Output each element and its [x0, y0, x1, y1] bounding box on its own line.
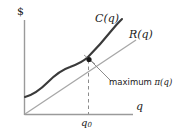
q0-tick-label: q0: [81, 118, 92, 129]
annotation-symbol: π(q): [155, 77, 173, 87]
y-axis-label: $: [17, 6, 24, 17]
revenue-curve-label: R(q): [129, 29, 153, 40]
annotation-word: maximum: [109, 77, 155, 87]
chart-canvas: [0, 0, 174, 136]
x-axis-label: q: [136, 101, 143, 112]
maximum-profit-annotation: maximum π(q): [109, 78, 172, 87]
profit-maximization-figure: $ q C(q) R(q) q0 maximum π(q): [0, 0, 174, 136]
cost-curve-label: C(q): [95, 13, 119, 24]
max-profit-marker: [86, 57, 91, 62]
cost-curve-path: [25, 19, 122, 97]
q0-tick-subscript: 0: [87, 121, 91, 129]
